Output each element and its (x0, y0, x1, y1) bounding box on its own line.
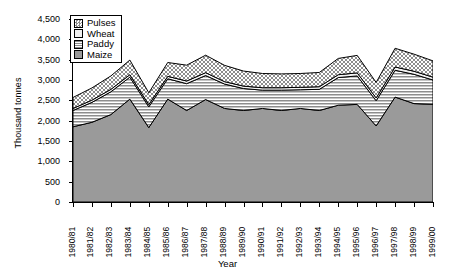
legend-item-pulses: Pulses (74, 18, 116, 29)
legend-swatch-icon (74, 40, 83, 49)
y-tick-label: 2,500 (26, 96, 60, 105)
x-tick-label: 1984/85 (143, 226, 152, 257)
y-tick-label: 0 (26, 198, 60, 207)
x-axis-title: Year (0, 258, 455, 269)
y-tick-mark (69, 161, 73, 162)
x-tick-label: 1988/89 (219, 226, 228, 257)
x-tick-label: 1982/83 (105, 226, 114, 257)
x-tick-label: 1995/96 (351, 226, 360, 257)
legend-item-maize: Maize (74, 50, 116, 61)
y-tick-label: 500 (26, 177, 60, 186)
x-tick-label: 1989/90 (238, 226, 247, 257)
y-tick-label: 1,500 (26, 137, 60, 146)
x-tick-label: 1990/91 (256, 226, 265, 257)
y-tick-label: 4,000 (26, 35, 60, 44)
x-tick-label: 1998/99 (408, 226, 417, 257)
y-tick-label: 2,000 (26, 116, 60, 125)
x-tick-label: 1986/87 (181, 226, 190, 257)
x-tick-label: 1996/97 (370, 226, 379, 257)
legend-swatch-icon (74, 19, 83, 28)
area-series-svg (73, 19, 433, 202)
y-tick-label: 3,000 (26, 76, 60, 85)
legend-swatch-icon (74, 29, 83, 38)
chart-legend: PulsesWheatPaddyMaize (70, 15, 122, 63)
stacked-area-chart: Thousand tonnes 05001,0001,5002,0002,500… (0, 0, 455, 272)
legend-label: Paddy (87, 39, 114, 50)
y-tick-mark (69, 141, 73, 142)
x-tick-label: 1992/93 (294, 226, 303, 257)
y-axis-title: Thousand tonnes (13, 43, 23, 183)
legend-item-paddy: Paddy (74, 39, 116, 50)
x-tick-label: 1985/86 (162, 226, 171, 257)
legend-swatch-icon (74, 50, 83, 59)
y-tick-mark (69, 121, 73, 122)
y-tick-label: 3,500 (26, 55, 60, 64)
x-tick-label: 1994/95 (332, 226, 341, 257)
legend-label: Maize (87, 50, 112, 61)
x-axis-tick-labels: 1980/811981/821982/831983/841984/851985/… (72, 205, 433, 257)
y-tick-mark (69, 80, 73, 81)
x-tick-label: 1983/84 (124, 226, 133, 257)
x-tick-label: 1991/92 (275, 226, 284, 257)
y-tick-mark (69, 100, 73, 101)
x-tick-label: 1999/00 (427, 226, 436, 257)
x-tick-label: 1997/98 (389, 226, 398, 257)
x-tick-label: 1993/94 (313, 226, 322, 257)
y-axis-tick-labels: 05001,0001,5002,0002,5003,0003,5004,0004… (24, 0, 60, 272)
x-tick-mark (433, 202, 434, 207)
legend-label: Pulses (87, 18, 116, 29)
x-tick-label: 1980/81 (67, 226, 76, 257)
x-tick-label: 1987/88 (200, 226, 209, 257)
y-tick-label: 4,500 (26, 15, 60, 24)
y-tick-mark (69, 182, 73, 183)
x-tick-label: 1981/82 (86, 226, 95, 257)
y-tick-label: 1,000 (26, 157, 60, 166)
plot-area (72, 19, 433, 203)
